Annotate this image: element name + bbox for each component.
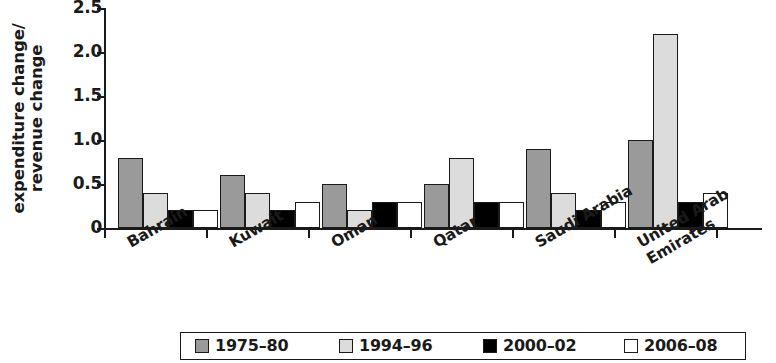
legend-item[interactable]: 1975–80 [195, 336, 288, 356]
y-axis-tick-labels: 00.51.01.52.02.5 [56, 0, 102, 236]
legend-label: 1994–96 [359, 338, 432, 354]
bar-chart: expenditure change/ revenue change 00.51… [0, 0, 776, 363]
y-tick-label: 1.5 [56, 87, 102, 104]
legend-swatch-icon [195, 339, 209, 353]
y-tick-mark [97, 140, 104, 142]
bar [628, 140, 653, 228]
y-tick-label: 2.0 [56, 43, 102, 60]
bar [424, 184, 449, 228]
legend-item[interactable]: 1994–96 [339, 336, 432, 356]
plot-area [104, 8, 762, 230]
y-tick-mark [97, 96, 104, 98]
legend-label: 2006–08 [644, 338, 717, 354]
y-axis-title: expenditure change/ revenue change [0, 0, 56, 236]
y-tick-label: 2.5 [56, 0, 102, 16]
legend-item[interactable]: 2006–08 [624, 336, 717, 356]
legend-label: 1975–80 [215, 338, 288, 354]
bar [653, 34, 678, 228]
bar [499, 202, 524, 228]
legend-item[interactable]: 2000–02 [483, 336, 576, 356]
x-axis-category-labels: BahrainKuwaitOmanQatarSaudi ArabiaUnited… [104, 232, 776, 328]
legend-label: 2000–02 [503, 338, 576, 354]
y-tick-label: 0.5 [56, 175, 102, 192]
y-axis-title-line-1: expenditure change/ [10, 23, 28, 213]
legend-swatch-icon [483, 339, 497, 353]
bar [118, 158, 143, 228]
bar [526, 149, 551, 228]
bar [295, 202, 320, 228]
y-tick-mark [97, 184, 104, 186]
y-tick-mark [97, 52, 104, 54]
y-tick-mark [97, 8, 104, 10]
bar [322, 184, 347, 228]
legend: 1975–801994–962000–022006–08 [180, 332, 746, 360]
bar [193, 210, 218, 228]
bar [397, 202, 422, 228]
legend-swatch-icon [339, 339, 353, 353]
y-tick-mark [97, 228, 104, 230]
y-tick-label: 0 [56, 219, 102, 236]
y-tick-label: 1.0 [56, 131, 102, 148]
bar [220, 175, 245, 228]
y-axis-title-line-2: revenue change [28, 23, 46, 213]
bars-container [104, 8, 762, 228]
legend-swatch-icon [624, 339, 638, 353]
